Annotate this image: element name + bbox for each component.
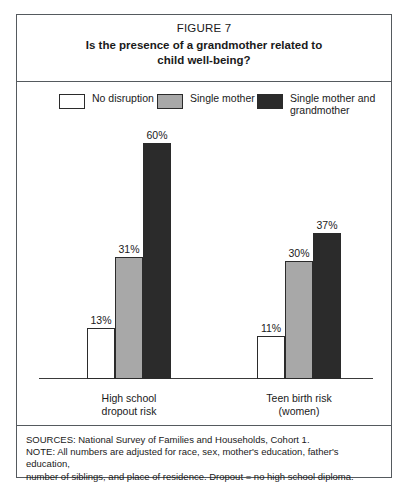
bar-no-disruption [257, 336, 285, 379]
bar-wrap-single-mother-and-grandmother: 60% [143, 143, 171, 379]
figure-title-line-1: Is the presence of a grandmother related… [86, 39, 322, 51]
bar-wrap-single-mother-and-grandmother: 37% [313, 233, 341, 379]
bar-single-mother [115, 257, 143, 379]
bar-single-mother [285, 261, 313, 379]
category-label-teen-birth-risk: Teen birth risk (women) [235, 392, 363, 417]
title-divider [17, 81, 391, 82]
footer-note-line-2: number of siblings, and place of residen… [26, 471, 382, 483]
bar-wrap-no-disruption: 13% [87, 328, 115, 379]
bar-wrap-single-mother: 31% [115, 257, 143, 379]
figure-title-line-2: child well-being? [47, 53, 361, 68]
bar-wrap-no-disruption: 11% [257, 336, 285, 379]
footer-divider [17, 425, 391, 426]
legend-swatch-single-mother-and-grandmother [257, 94, 283, 109]
chart-plot-area: 13% 31% 60% High school dropout risk 11% [17, 121, 391, 425]
figure-frame: FIGURE 7 Is the presence of a grandmothe… [16, 14, 392, 478]
figure-number: FIGURE 7 [17, 21, 391, 36]
bar-group-bars: 11% 30% 37% [235, 121, 363, 379]
legend-item-single-mother-and-grandmother: Single mother and grandmother [257, 93, 375, 116]
legend-item-single-mother: Single mother [157, 93, 255, 109]
figure-title-block: FIGURE 7 Is the presence of a grandmothe… [17, 15, 391, 81]
bar-value-single-mother-and-grandmother: 37% [305, 219, 349, 231]
chart-legend: No disruption Single mother Single mothe… [17, 87, 391, 121]
bar-no-disruption [87, 328, 115, 379]
legend-swatch-no-disruption [59, 94, 85, 109]
bar-value-single-mother-and-grandmother: 60% [135, 129, 179, 141]
bar-group-high-school-dropout-risk: 13% 31% 60% High school dropout risk [65, 121, 193, 425]
footer-note-line-1: NOTE: All numbers are adjusted for race,… [26, 446, 382, 470]
bar-single-mother-and-grandmother [313, 233, 341, 379]
bar-wrap-single-mother: 30% [285, 261, 313, 379]
bar-single-mother-and-grandmother [143, 143, 171, 379]
legend-item-no-disruption: No disruption [59, 93, 154, 109]
bar-group-teen-birth-risk: 11% 30% 37% Teen birth risk (women) [235, 121, 363, 425]
category-label-high-school-dropout-risk: High school dropout risk [65, 392, 193, 417]
legend-label-no-disruption: No disruption [92, 93, 154, 105]
legend-label-single-mother-and-grandmother: Single mother and grandmother [290, 93, 375, 116]
figure-footer: SOURCES: National Survey of Families and… [17, 427, 391, 483]
legend-swatch-single-mother [157, 94, 183, 109]
footer-sources: SOURCES: National Survey of Families and… [26, 434, 382, 446]
bar-group-bars: 13% 31% 60% [65, 121, 193, 379]
legend-label-single-mother: Single mother [190, 93, 255, 105]
figure-title: Is the presence of a grandmother related… [17, 38, 391, 68]
